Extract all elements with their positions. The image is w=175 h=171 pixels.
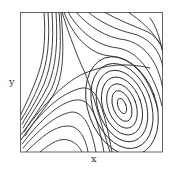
phase-portrait-figure: y x — [0, 0, 175, 171]
trajectories — [20, 12, 171, 166]
x-axis-label: x — [91, 154, 97, 164]
plot-frame — [21, 13, 163, 153]
phase-portrait-plot — [0, 0, 175, 171]
y-axis-label: y — [9, 77, 15, 87]
